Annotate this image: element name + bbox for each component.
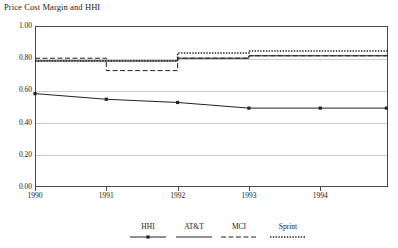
legend-item-mci[interactable]: MCI: [217, 222, 261, 241]
legend-swatch: [266, 233, 310, 241]
legend-swatch: [126, 233, 170, 241]
legend-swatch: [217, 233, 261, 241]
legend-swatch: [172, 233, 216, 241]
data-point-marker: [176, 101, 179, 104]
x-tick-label: 1991: [99, 192, 114, 200]
series-overlay: [35, 26, 388, 187]
y-tick-label: 0.80: [2, 54, 32, 62]
legend-label: HHI: [126, 222, 170, 231]
legend-label: AT&T: [172, 222, 216, 231]
y-tick-label: 1.00: [2, 22, 32, 30]
y-tick-label: 0.00: [2, 183, 32, 191]
x-tick-label: 1992: [170, 192, 185, 200]
legend-item-at-t[interactable]: AT&T: [172, 222, 216, 241]
y-tick-label: 0.60: [2, 86, 32, 94]
legend-label: MCI: [217, 222, 261, 231]
data-point-marker: [247, 107, 250, 110]
data-point-marker: [105, 98, 108, 101]
chart-title: Price Cost Margin and HHI: [4, 2, 100, 13]
x-tick-label: 1993: [241, 192, 256, 200]
data-point-marker: [385, 107, 388, 110]
legend-label: Sprint: [266, 222, 310, 231]
series-hhi: [33, 92, 388, 110]
data-point-marker: [33, 92, 36, 95]
y-tick-label: 0.20: [2, 151, 32, 159]
x-tick-label: 1990: [28, 192, 43, 200]
x-tick-label: 1994: [313, 192, 328, 200]
legend-item-sprint[interactable]: Sprint: [266, 222, 310, 241]
series-line: [35, 94, 320, 108]
legend-item-hhi[interactable]: HHI: [126, 222, 170, 241]
chart-legend: HHIAT&TMCISprint: [0, 222, 398, 246]
chart-container: Price Cost Margin and HHI 0.000.200.400.…: [0, 0, 398, 248]
y-tick-label: 0.40: [2, 119, 32, 127]
